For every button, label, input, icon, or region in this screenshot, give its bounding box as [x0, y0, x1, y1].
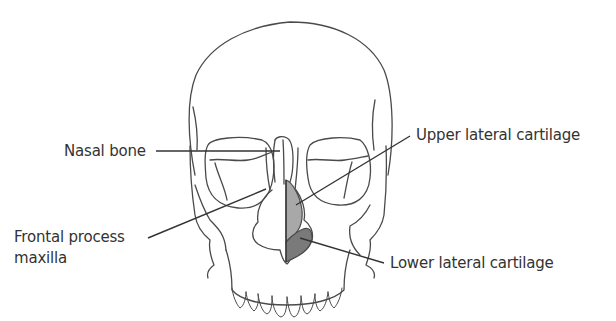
leader-lower-cartilage	[300, 238, 384, 263]
leader-upper-cartilage	[296, 136, 410, 205]
label-nasal-bone: Nasal bone	[64, 142, 146, 160]
skull-diagram: Nasal bone Frontal process maxilla Upper…	[0, 0, 616, 321]
label-frontal-process: Frontal process	[14, 228, 125, 246]
leader-frontal-process	[148, 189, 266, 238]
label-frontal-process-maxilla: maxilla	[14, 249, 67, 267]
left-orbit	[205, 138, 274, 209]
label-lower-lateral-cartilage: Lower lateral cartilage	[390, 254, 554, 272]
label-upper-lateral-cartilage: Upper lateral cartilage	[416, 126, 580, 144]
cranium-outline	[189, 22, 392, 175]
teeth	[232, 288, 342, 317]
right-orbit	[307, 138, 371, 205]
skull-illustration	[0, 0, 616, 321]
